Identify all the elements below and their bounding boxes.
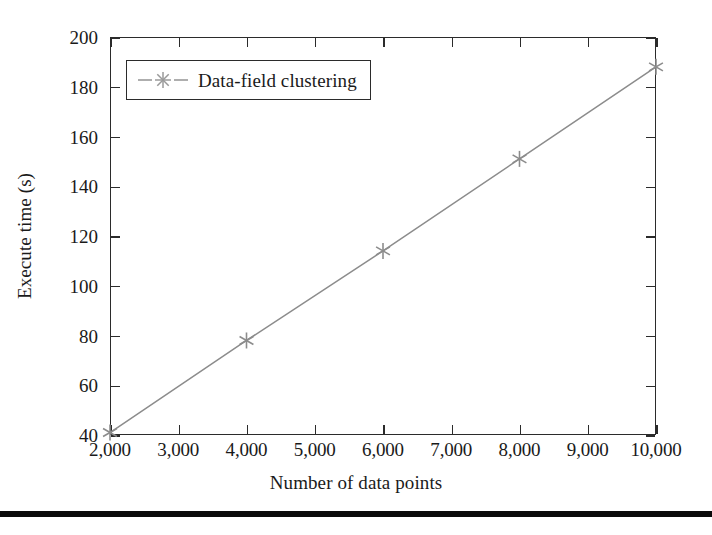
data-point-asterisk-marker	[649, 59, 663, 75]
y-tick-right	[646, 435, 655, 436]
bottom-rule-divider	[0, 511, 712, 517]
y-tick-label: 80	[0, 326, 98, 345]
y-tick-label: 40	[0, 426, 98, 445]
y-tick-label: 200	[0, 28, 98, 47]
x-tick-label: 3,000	[157, 440, 199, 459]
x-axis-title: Number of data points	[0, 472, 712, 494]
data-point-asterisk-marker	[376, 243, 390, 259]
y-axis-title: Execute time (s)	[14, 173, 36, 299]
legend-entry-label: Data-field clustering	[198, 71, 357, 90]
chart-legend: Data-field clustering	[126, 60, 371, 100]
x-tick-label: 6,000	[362, 440, 404, 459]
legend-asterisk-marker-icon	[137, 69, 189, 91]
x-tick-label: 10,000	[630, 440, 681, 459]
x-tick-bottom	[656, 425, 657, 434]
figure-container: 2,0003,0004,0005,0006,0007,0008,0009,000…	[0, 0, 712, 535]
x-tick-label: 7,000	[430, 440, 472, 459]
y-tick-label: 60	[0, 376, 98, 395]
y-tick-label: 160	[0, 127, 98, 146]
x-tick-label: 4,000	[226, 440, 268, 459]
y-tick-label: 180	[0, 77, 98, 96]
data-point-asterisk-marker	[240, 332, 254, 348]
x-tick-label: 5,000	[294, 440, 336, 459]
x-tick-top	[656, 38, 657, 47]
x-tick-label: 8,000	[499, 440, 541, 459]
x-tick-label: 9,000	[567, 440, 609, 459]
data-point-asterisk-marker	[513, 151, 527, 167]
